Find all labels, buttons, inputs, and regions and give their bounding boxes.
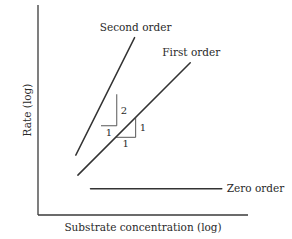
series-layer xyxy=(76,38,222,189)
reaction-order-chart: Rate (log) Substrate concentration (log)… xyxy=(0,0,292,239)
y-axis-label: Rate (log) xyxy=(21,84,33,137)
x-axis-label: Substrate concentration (log) xyxy=(64,221,221,233)
slope-triangles: 1211 xyxy=(101,94,146,149)
run-label-second-order: 1 xyxy=(106,127,112,138)
run-label-first-order: 1 xyxy=(122,138,128,149)
rise-label-first-order: 1 xyxy=(140,122,146,133)
series-label-first-order: First order xyxy=(162,46,221,58)
rise-label-second-order: 2 xyxy=(121,105,127,116)
series-labels: Second orderFirst orderZero order xyxy=(100,21,285,195)
series-label-second-order: Second order xyxy=(100,21,173,33)
series-label-zero-order: Zero order xyxy=(227,182,285,194)
series-line-first-order xyxy=(78,63,190,175)
